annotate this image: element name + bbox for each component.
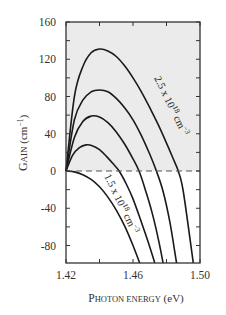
y-tick-label: 0 <box>50 165 56 177</box>
annotation-low-density: 1.5 x 1018 cm−3 <box>102 171 142 235</box>
x-axis-title: PHOTON ENERGY (eV) <box>88 292 184 305</box>
y-tick-label: 120 <box>39 53 57 65</box>
x-tick-label: 1.46 <box>123 269 143 281</box>
y-axis-title: GAIN (cm−1) <box>16 115 30 172</box>
gain-chart: 16012080400-40-801.421.461.50 GAIN (cm−1… <box>0 0 226 315</box>
y-tick-label: 80 <box>45 91 57 103</box>
y-tick-label: 160 <box>39 16 57 28</box>
x-tick-label: 1.50 <box>190 269 210 281</box>
y-tick-label: 40 <box>45 128 57 140</box>
y-tick-label: -40 <box>41 202 57 214</box>
x-tick-label: 1.42 <box>56 269 76 281</box>
y-tick-label: -80 <box>41 240 57 252</box>
